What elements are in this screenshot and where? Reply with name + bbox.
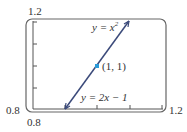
y-min-label: 0.8 [6, 104, 20, 116]
y-ticks [33, 22, 37, 88]
point-label: (1, 1) [102, 60, 126, 73]
x-ticks [65, 105, 162, 109]
curve-label-text: y = x [91, 21, 115, 33]
y-max-label: 1.2 [28, 5, 42, 17]
curve-label-exponent: 2 [115, 20, 119, 28]
x-max-label: 1.2 [169, 104, 183, 116]
tangent-line-chart: 1.2 0.8 0.8 1.2 y = x2 (1, 1) y = 2x − 1 [0, 0, 187, 132]
curve-label: y = x2 [91, 20, 119, 33]
point-marker [95, 64, 99, 68]
tangent-label: y = 2x − 1 [80, 91, 128, 103]
x-min-label: 0.8 [27, 116, 41, 128]
